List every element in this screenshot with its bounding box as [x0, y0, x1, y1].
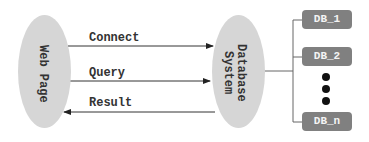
db-2-box: DB_2 [302, 47, 352, 66]
db-1-box: DB_1 [302, 10, 352, 29]
connect-label: Connect [89, 31, 139, 45]
web-page-label: Web Page [36, 38, 49, 110]
ellipsis-dot-2 [322, 85, 330, 93]
database-system-label: Database System [221, 38, 247, 108]
client-server-diagram: Web Page Database System Connect Query R… [0, 0, 369, 142]
ellipsis-dot-1 [322, 73, 330, 81]
query-label: Query [89, 66, 125, 80]
db-n-box: DB_n [302, 112, 352, 131]
ellipsis-dot-3 [322, 97, 330, 105]
result-label: Result [89, 96, 132, 110]
